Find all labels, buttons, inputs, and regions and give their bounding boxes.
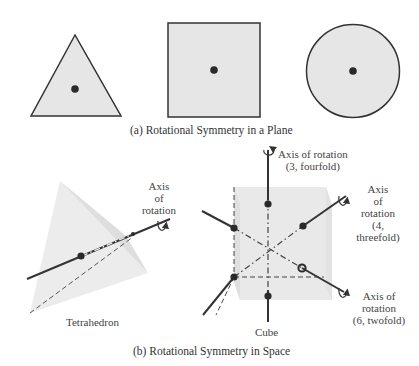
label-line: of	[139, 192, 179, 204]
label-line: rotation	[350, 207, 406, 219]
label-line: threefold)	[350, 231, 406, 243]
tetrahedron-label: Tetrahedron	[66, 316, 119, 328]
cube-figure	[202, 148, 347, 322]
label-line: (6, twofold)	[348, 314, 410, 326]
square-shape	[168, 23, 260, 117]
caption-b: (b) Rotational Symmetry in Space	[133, 345, 290, 357]
label-line: (3, fourfold)	[278, 160, 348, 172]
label-line: Axis of rotation	[278, 148, 348, 160]
label-line: (4,	[350, 219, 406, 231]
triangle-shape	[31, 35, 121, 116]
circle-shape	[307, 25, 400, 118]
twofold-axis-label: Axis of rotation (6, twofold)	[348, 290, 410, 326]
threefold-axis-label: Axis of rotation (4, threefold)	[350, 183, 406, 243]
label-line: Axis of	[348, 290, 410, 302]
cube-label: Cube	[255, 326, 278, 338]
fourfold-axis-label: Axis of rotation (3, fourfold)	[278, 148, 348, 172]
caption-a: (a) Rotational Symmetry in a Plane	[130, 124, 293, 136]
label-line: Axis	[139, 180, 179, 192]
label-line: rotation	[139, 204, 179, 216]
label-line: of	[350, 195, 406, 207]
rotation-center-dot	[210, 66, 218, 74]
rotation-center-dot	[349, 67, 357, 75]
label-line: Axis	[350, 183, 406, 195]
rotation-center-dot	[71, 85, 79, 93]
label-line: rotation	[348, 302, 410, 314]
tetra-axis-label: Axis of rotation	[139, 180, 179, 216]
